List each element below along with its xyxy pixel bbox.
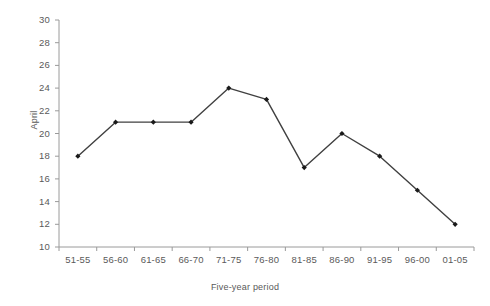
data-point-marker	[264, 97, 269, 102]
data-series	[75, 86, 457, 227]
axes	[55, 20, 474, 251]
plot-area	[0, 0, 490, 306]
series-line	[78, 88, 455, 224]
line-chart: April Five-year period 30282624222018161…	[0, 0, 490, 306]
data-point-marker	[151, 120, 156, 125]
